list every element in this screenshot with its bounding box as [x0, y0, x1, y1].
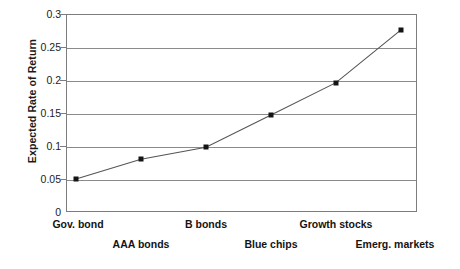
data-point-marker: [74, 177, 79, 182]
y-axis-tick-label: 0.05: [21, 173, 61, 185]
x-axis-label: AAA bonds: [113, 238, 170, 250]
x-axis-label: Gov. bond: [52, 218, 103, 230]
data-point-marker: [334, 80, 339, 85]
data-point-marker: [269, 112, 274, 117]
data-point-marker: [139, 157, 144, 162]
x-axis-label: Emerg. markets: [356, 238, 435, 250]
y-axis-tick-label: 0: [21, 206, 61, 218]
y-axis-tick-label: 0.1: [21, 140, 61, 152]
data-point-marker: [204, 145, 209, 150]
y-axis-tick-label: 0.2: [21, 74, 61, 86]
data-series-line: [66, 14, 417, 212]
y-axis-title: Expected Rate of Return: [26, 6, 38, 196]
y-axis-tick-label: 0.15: [21, 107, 61, 119]
x-axis-label: Blue chips: [244, 238, 297, 250]
y-axis-tick-label: 0.3: [21, 8, 61, 20]
x-axis-label: B bonds: [185, 218, 227, 230]
y-axis-tick-label: 0.25: [21, 41, 61, 53]
data-point-marker: [399, 27, 404, 32]
x-axis-label: Growth stocks: [300, 218, 373, 230]
chart-figure: Expected Rate of Return 0.30.250.20.150.…: [0, 0, 460, 269]
